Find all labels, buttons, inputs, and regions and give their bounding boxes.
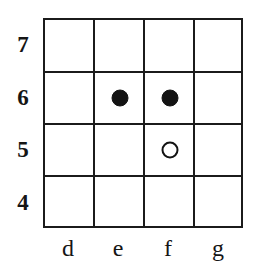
grid-line-horizontal-1 [45, 71, 241, 73]
rank-label-5: 5 [8, 138, 38, 161]
marker-f5[interactable] [162, 142, 179, 159]
grid-line-horizontal-2 [45, 123, 241, 125]
marker-e6[interactable] [112, 90, 129, 107]
board-grid[interactable] [43, 18, 243, 228]
file-label-e: e [93, 236, 143, 260]
board-diagram: 7 6 5 4 d e f g [0, 0, 260, 270]
file-label-g: g [193, 236, 243, 260]
board-grid-inner [45, 20, 241, 226]
marker-f6[interactable] [162, 90, 179, 107]
grid-line-horizontal-3 [45, 175, 241, 177]
rank-label-4: 4 [8, 191, 38, 214]
file-label-f: f [143, 236, 193, 260]
file-label-d: d [43, 236, 93, 260]
rank-label-6: 6 [8, 86, 38, 109]
rank-label-7: 7 [8, 33, 38, 56]
